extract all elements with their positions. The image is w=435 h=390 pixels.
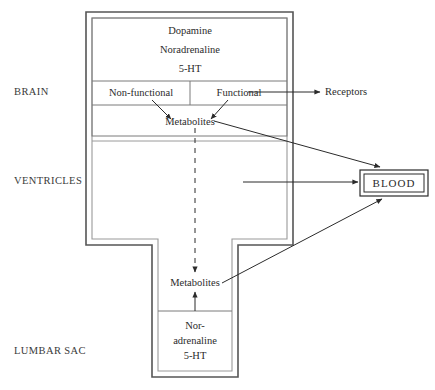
brain-metabolites-label: Metabolites — [165, 116, 215, 127]
lumbar-metabolites-label: Metabolites — [170, 277, 220, 288]
lumbar-transmitter-nor: Nor- — [185, 320, 205, 331]
blood-label: BLOOD — [373, 177, 416, 189]
brain-pool-functional: Functional — [217, 87, 262, 98]
arrow-lumbar-metabolites-to-blood — [222, 199, 382, 283]
diagram-vector-layer — [0, 0, 435, 390]
brain-transmitter-5ht: 5-HT — [179, 63, 202, 74]
side-label-ventricles: VENTRICLES — [14, 175, 82, 186]
side-label-brain: BRAIN — [14, 86, 49, 97]
brain-transmitter-dopamine: Dopamine — [168, 25, 212, 36]
lumbar-transmitter-adrenaline: adrenaline — [173, 335, 217, 346]
receptors-label: Receptors — [325, 86, 367, 97]
lumbar-transmitter-5ht: 5-HT — [184, 350, 207, 361]
arrow-brain-metabolites-to-blood — [214, 121, 380, 167]
brain-pool-non-functional: Non-functional — [109, 87, 173, 98]
brain-transmitter-noradrenaline: Noradrenaline — [160, 44, 220, 55]
side-label-lumbar-sac: LUMBAR SAC — [14, 345, 86, 356]
diagram-root: BRAIN VENTRICLES LUMBAR SAC Dopamine Nor… — [0, 0, 435, 390]
